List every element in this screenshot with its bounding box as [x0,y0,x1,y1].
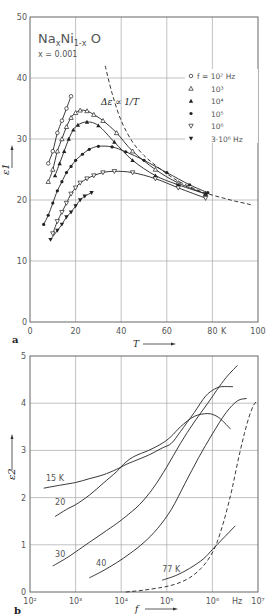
marker-open-circle [65,107,69,111]
y-tick-label: 1 [21,541,26,550]
marker-open-triangle [55,149,59,153]
y-tick-label: 30 [17,135,27,144]
y-tick-label: 3 [21,446,26,455]
x-tick-label: 80 [207,327,217,336]
arrow-right-icon [171,343,176,346]
chart-a-xlabel: T [133,339,140,349]
marker-filled-triangle [57,161,61,165]
marker-filled-inverted-triangle [89,191,93,195]
chart-a-subtitle: x = 0.001 [38,50,77,59]
curve-label: 15 K [46,474,65,483]
marker-open-triangle [92,112,96,116]
x-tick-label: 10⁵ [160,597,173,606]
chart-b-xlabel: f [134,604,140,614]
series-line [48,96,71,163]
marker-filled-circle [69,165,72,168]
series-line [89,399,246,578]
marker-filled-circle [189,112,192,115]
marker-filled-triangle [96,123,100,127]
y-tick-label: 0 [21,588,26,597]
legend-label: 10⁴ [211,97,224,106]
chart-b: 10²10³10⁴10⁵10⁶10⁷012345 15 K20304077 K … [6,352,265,616]
x-tick-label: 10⁶ [206,597,219,606]
arrow-up-icon [11,434,14,439]
marker-open-inverted-triangle [64,201,68,205]
curve-label: 20 [55,498,65,507]
y-tick-label: 0 [22,318,27,327]
legend-label: 10⁶ [211,122,224,131]
y-tick-label: 10 [17,257,27,266]
series-line [53,365,238,566]
marker-open-circle [51,149,55,153]
marker-filled-circle [142,159,145,162]
arrow-up-icon [11,145,14,150]
x-tick-label: 10² [23,597,36,606]
marker-filled-triangle [62,149,66,153]
marker-open-inverted-triangle [60,210,64,214]
legend-label: 10³ [211,85,224,94]
curve-label: 77 K [162,565,181,574]
x-tick-label: 40 [116,327,126,336]
y-tick-label: 50 [17,13,27,22]
marker-filled-circle [206,191,209,194]
marker-filled-circle [110,145,113,148]
panel-b-label: b [14,605,21,616]
arrow-right-icon [173,608,178,611]
y-tick-label: 20 [17,196,27,205]
marker-open-circle [56,131,60,135]
x-tick-label: 60 [162,327,172,336]
marker-filled-circle [88,148,91,151]
marker-filled-circle [124,150,127,153]
legend-label: f = 10² Hz [197,72,235,81]
marker-filled-circle [60,180,63,183]
marker-open-inverted-triangle [85,177,89,181]
panel-a-label: a [12,334,19,345]
chart-b-xunit: Hz [232,597,242,606]
y-tick-label: 5 [21,352,26,361]
marker-open-circle [60,119,64,123]
series-line [44,387,233,489]
marker-open-triangle [46,180,50,184]
legend-label: 3·10⁶ Hz [211,135,243,144]
marker-filled-circle [47,214,50,217]
marker-open-circle [189,74,193,78]
chart-a-xunit: K [221,327,227,336]
chart-a-annotation: Δε ∝ 1/T [100,97,140,107]
chart-a-grid [30,17,258,322]
marker-filled-circle [74,159,77,162]
marker-filled-circle [65,171,68,174]
x-tick-label: 20 [71,327,81,336]
marker-open-triangle [51,167,55,171]
x-tick-label: 10⁷ [251,597,264,606]
y-tick-label: 2 [21,494,26,503]
marker-filled-triangle [76,123,80,127]
marker-open-inverted-triangle [55,220,59,224]
figure: 02040608010001020304050 NaxNi1-x O x = 0… [0,0,272,616]
marker-filled-circle [97,145,100,148]
chart-a-legend: f = 10² Hz10³10⁴10⁵10⁶3·10⁶ Hz [185,69,258,144]
series-line [126,401,257,592]
marker-filled-circle [56,189,59,192]
legend-label: 10⁵ [211,110,224,119]
x-tick-label: 0 [27,327,32,336]
y-tick-label: 40 [17,74,27,83]
x-tick-label: 10³ [69,597,82,606]
marker-filled-circle [51,201,54,204]
marker-filled-inverted-triangle [48,238,52,242]
chart-a: 02040608010001020304050 NaxNi1-x O x = 0… [0,13,266,349]
marker-open-inverted-triangle [69,192,73,196]
curve-label: 40 [96,559,106,568]
curve-label: 30 [55,550,65,559]
marker-open-circle [46,162,50,166]
chart-a-frame [30,17,258,322]
chart-a-title: NaxNi1-x O [38,31,101,48]
x-tick-label: 100 [250,327,265,336]
x-tick-label: 10⁴ [115,597,128,606]
y-tick-label: 4 [21,399,26,408]
chart-a-ylabel: ε1 [0,163,11,175]
marker-filled-circle [42,223,45,226]
marker-open-triangle [64,125,68,129]
marker-filled-triangle [53,173,57,177]
marker-open-circle [69,95,73,99]
chart-b-ylabel: ε2 [6,468,17,480]
